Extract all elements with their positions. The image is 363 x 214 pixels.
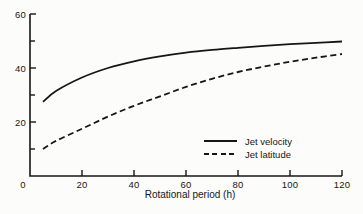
- legend-label-jet-latitude: Jet latitude: [245, 149, 291, 160]
- legend-label-jet-velocity: Jet velocity: [245, 136, 292, 147]
- legend-item-jet-velocity: Jet velocity: [204, 135, 292, 147]
- x-tick-label-100: 100: [275, 179, 305, 190]
- x-tick-label-40: 40: [119, 179, 149, 190]
- chart-figure: Rotational period (h) Jet velocity Jet l…: [0, 0, 363, 214]
- x-tick-label-120: 120: [327, 179, 357, 190]
- legend: Jet velocity Jet latitude: [204, 135, 292, 160]
- x-tick-label-60: 60: [171, 179, 201, 190]
- y-tick-label-40: 40: [4, 63, 26, 74]
- x-axis-label: Rotational period (h): [30, 189, 350, 200]
- dashed-line-swatch: [204, 153, 237, 155]
- solid-line-swatch: [204, 140, 237, 142]
- legend-item-jet-latitude: Jet latitude: [204, 148, 292, 160]
- y-tick-label-20: 20: [4, 117, 26, 128]
- axes: [30, 14, 342, 176]
- x-tick-label-20: 20: [67, 179, 97, 190]
- curve-jet-latitude: [43, 54, 342, 149]
- curve-jet-velocity: [43, 42, 342, 102]
- x-tick-label-80: 80: [223, 179, 253, 190]
- x-tick-label-0: 0: [8, 179, 38, 190]
- y-tick-label-60: 60: [4, 9, 26, 20]
